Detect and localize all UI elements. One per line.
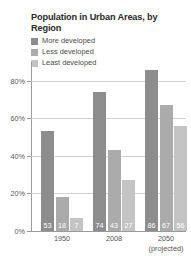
bar-value-label: 7 xyxy=(70,222,83,230)
bar[interactable]: 86 xyxy=(145,70,158,231)
bar[interactable]: 18 xyxy=(56,197,69,231)
y-axis-tick-label: 20% xyxy=(11,189,25,198)
bar-group-2: 866756 xyxy=(145,62,187,231)
y-axis-tick-label: 40% xyxy=(11,151,25,160)
bar-groups: 53187744327866756 xyxy=(32,62,186,231)
legend-item-label: More developed xyxy=(42,36,95,47)
x-axis-tick-label: 2008 xyxy=(106,234,122,243)
x-axis-tick-2: 2050(projected) xyxy=(135,234,191,253)
gridline-0 xyxy=(31,231,186,232)
legend-item-label: Less developed xyxy=(42,47,94,58)
bar-value-label: 56 xyxy=(174,222,187,230)
bar[interactable]: 53 xyxy=(41,131,54,231)
bar-value-label: 86 xyxy=(145,222,158,230)
bar-group-1: 744327 xyxy=(93,62,135,231)
bar-value-label: 43 xyxy=(108,222,121,230)
bar-value-label: 18 xyxy=(56,222,69,230)
legend-swatch-icon xyxy=(31,49,38,56)
bar[interactable]: 74 xyxy=(93,92,106,231)
bar-value-label: 67 xyxy=(160,222,173,230)
x-axis-labels: 195020082050(projected) xyxy=(31,234,186,260)
y-axis-tick-label: 80% xyxy=(11,76,25,85)
legend-item-1[interactable]: Less developed xyxy=(31,47,96,58)
plot-area: 0%20%40%60%80% 53187744327866756 xyxy=(31,62,186,231)
bar[interactable]: 7 xyxy=(70,218,83,231)
x-axis-tick-sublabel: (projected) xyxy=(135,244,191,254)
y-tick-mark-40 xyxy=(27,156,31,157)
y-axis-tick-label: 0% xyxy=(15,227,25,236)
y-axis-tick-label: 60% xyxy=(11,114,25,123)
chart-title: Population in Urban Areas, by Region xyxy=(31,12,183,33)
legend-swatch-icon xyxy=(31,38,38,45)
y-tick-mark-60 xyxy=(27,118,31,119)
bar-group-0: 53187 xyxy=(41,62,83,231)
x-axis-tick-label: 1950 xyxy=(54,234,70,243)
legend-item-0[interactable]: More developed xyxy=(31,36,96,47)
bar-value-label: 27 xyxy=(122,222,135,230)
bar[interactable]: 27 xyxy=(122,180,135,231)
y-tick-mark-0 xyxy=(27,231,31,232)
y-tick-mark-80 xyxy=(27,81,31,82)
x-axis-tick-label: 2050 xyxy=(158,234,174,243)
bar-value-label: 53 xyxy=(41,222,54,230)
urban-population-chart: Population in Urban Areas, by Region Mor… xyxy=(0,0,191,268)
y-tick-mark-20 xyxy=(27,193,31,194)
bar-value-label: 74 xyxy=(93,222,106,230)
bar[interactable]: 67 xyxy=(160,105,173,231)
bar[interactable]: 43 xyxy=(108,150,121,231)
bar[interactable]: 56 xyxy=(174,126,187,231)
